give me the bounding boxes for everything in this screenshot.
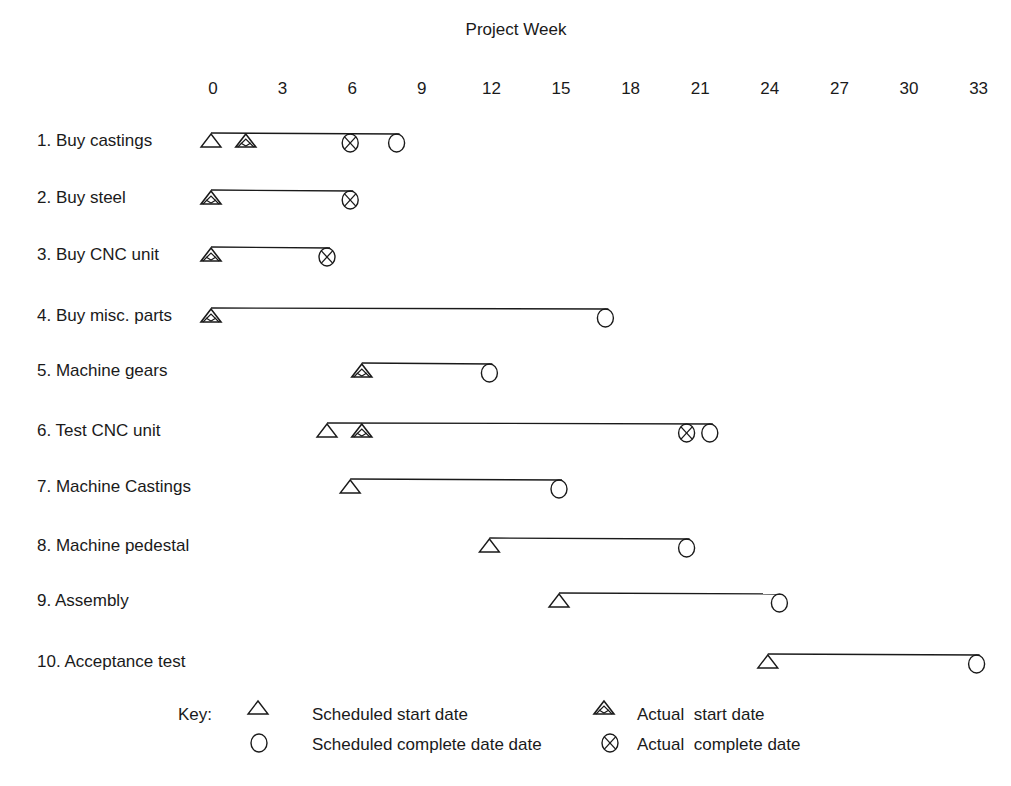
x-axis-ticks: 03691215182124273033 xyxy=(208,79,988,98)
scheduled-complete-marker xyxy=(679,539,695,557)
task-row: 9. Assembly xyxy=(37,591,787,612)
task-bar-line xyxy=(768,654,980,655)
task-bar-line xyxy=(211,308,608,309)
chart-title: Project Week xyxy=(466,20,567,39)
task-label: 2. Buy steel xyxy=(37,188,126,207)
legend-scheduled-complete-icon xyxy=(251,734,267,752)
scheduled-complete-marker xyxy=(597,309,613,327)
scheduled-complete-marker xyxy=(771,594,787,612)
x-tick-label: 30 xyxy=(900,79,919,98)
task-row: 2. Buy steel xyxy=(37,188,358,209)
x-tick-label: 27 xyxy=(830,79,849,98)
actual-start-marker xyxy=(352,424,372,437)
scheduled-start-marker xyxy=(479,539,499,552)
task-label: 4. Buy misc. parts xyxy=(37,306,172,325)
x-tick-label: 0 xyxy=(208,79,217,98)
task-bar-line xyxy=(350,479,562,480)
task-label: 6. Test CNC unit xyxy=(37,421,161,440)
actual-start-marker xyxy=(236,134,256,147)
scheduled-start-marker xyxy=(201,134,221,147)
task-label: 3. Buy CNC unit xyxy=(37,245,159,264)
task-bar-line xyxy=(327,423,713,424)
task-row: 7. Machine Castings xyxy=(37,477,567,498)
scheduled-complete-marker xyxy=(551,480,567,498)
scheduled-complete-marker xyxy=(389,134,405,152)
task-bar-line xyxy=(211,133,400,134)
scheduled-start-marker xyxy=(340,480,360,493)
actual-complete-marker xyxy=(342,134,358,152)
x-tick-label: 3 xyxy=(278,79,287,98)
scheduled-complete-circle-icon xyxy=(251,734,267,752)
task-label: 7. Machine Castings xyxy=(37,477,191,496)
task-row: 3. Buy CNC unit xyxy=(37,245,335,266)
x-tick-label: 9 xyxy=(417,79,426,98)
x-tick-label: 12 xyxy=(482,79,501,98)
task-bar-line xyxy=(559,593,782,594)
task-bar-line xyxy=(489,538,689,539)
actual-complete-marker xyxy=(319,248,335,266)
task-row: 4. Buy misc. parts xyxy=(37,306,613,327)
scheduled-complete-marker xyxy=(702,424,718,442)
x-tick-label: 33 xyxy=(969,79,988,98)
task-label: 10. Acceptance test xyxy=(37,652,186,671)
scheduled-complete-marker xyxy=(969,655,985,673)
legend-actual-complete-icon xyxy=(602,734,618,752)
x-tick-label: 6 xyxy=(347,79,356,98)
actual-start-marker xyxy=(201,248,221,261)
task-label: 8. Machine pedestal xyxy=(37,536,189,555)
legend-label-scheduled-complete: Scheduled complete date date xyxy=(312,735,542,754)
actual-start-marker xyxy=(352,364,372,377)
x-tick-label: 15 xyxy=(552,79,571,98)
actual-complete-marker xyxy=(342,191,358,209)
task-bar-line xyxy=(362,363,493,364)
task-row: 5. Machine gears xyxy=(37,361,497,382)
task-bar-line xyxy=(211,190,353,191)
legend-label-actual-complete: Actual complete date xyxy=(637,735,800,754)
legend-scheduled-start-icon xyxy=(248,701,268,714)
actual-start-marker xyxy=(201,191,221,204)
task-row: 8. Machine pedestal xyxy=(37,536,695,557)
task-row: 10. Acceptance test xyxy=(37,652,985,673)
actual-start-hatched-triangle-icon xyxy=(594,701,614,714)
scheduled-start-marker xyxy=(758,655,778,668)
gantt-chart: Project Week 03691215182124273033 1. Buy… xyxy=(0,0,1011,786)
legend: Key: Scheduled start date Actual start d… xyxy=(178,701,800,754)
task-label: 1. Buy castings xyxy=(37,131,152,150)
legend-label-scheduled-start: Scheduled start date xyxy=(312,705,468,724)
actual-complete-crossed-circle-icon xyxy=(602,734,618,752)
task-row: 6. Test CNC unit xyxy=(37,421,718,442)
x-tick-label: 24 xyxy=(760,79,779,98)
task-row: 1. Buy castings xyxy=(37,131,405,152)
legend-title: Key: xyxy=(178,705,212,724)
task-label: 9. Assembly xyxy=(37,591,129,610)
scheduled-start-triangle-icon xyxy=(248,701,268,714)
task-label: 5. Machine gears xyxy=(37,361,167,380)
task-rows: 1. Buy castings2. Buy steel3. Buy CNC un… xyxy=(37,131,985,673)
scheduled-start-marker xyxy=(549,594,569,607)
legend-actual-start-icon xyxy=(594,701,614,714)
task-bar-line xyxy=(211,247,330,248)
scheduled-complete-marker xyxy=(481,364,497,382)
actual-start-marker xyxy=(201,309,221,322)
legend-label-actual-start: Actual start date xyxy=(637,705,765,724)
x-tick-label: 18 xyxy=(621,79,640,98)
x-tick-label: 21 xyxy=(691,79,710,98)
actual-complete-marker xyxy=(679,424,695,442)
scheduled-start-marker xyxy=(317,424,337,437)
